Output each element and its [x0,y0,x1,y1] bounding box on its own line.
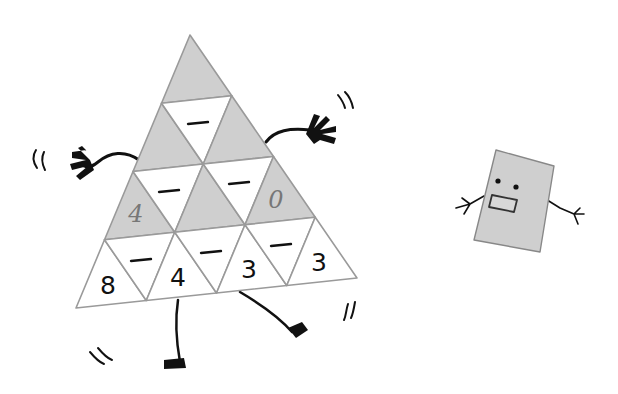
right-hand-icon [306,114,336,144]
bottom-number-1: 8 [100,271,116,300]
eye-icon [495,178,500,183]
top-cell[interactable] [162,35,232,103]
rectangle-character [456,150,584,252]
left-hand-icon [70,146,94,180]
left-shoe-icon [164,358,186,369]
right-leg [240,292,308,338]
left-leg [164,300,186,369]
right-arm [266,114,336,144]
eye-icon [513,184,518,189]
bottom-number-4: 3 [311,248,327,277]
left-arm [70,146,139,180]
bottom-number-2: 4 [170,263,186,292]
illustration: 8 4 3 3 4 0 [0,0,618,394]
row3-value-3: 0 [268,186,283,214]
right-shoe-icon [288,322,308,338]
row3-value-1: 4 [127,200,143,228]
bottom-number-3: 3 [241,255,257,284]
